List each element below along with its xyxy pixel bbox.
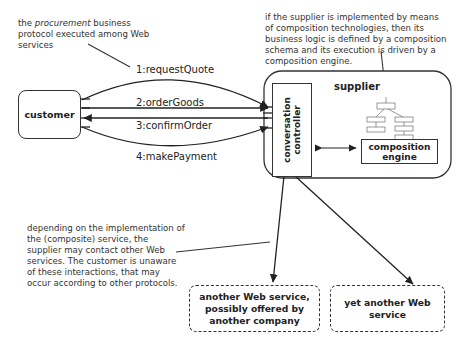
composition-note: if the supplier is implemented by means … — [265, 12, 446, 67]
composition-engine-node: composition engine — [361, 139, 438, 164]
conversation-controller-node: conversation controller — [272, 83, 312, 177]
message-label-request-quote: 1:requestQuote — [136, 64, 214, 75]
other-services-note: depending on the implementation of the (… — [27, 223, 185, 289]
message-label-confirm-order: 3:confirmOrder — [136, 120, 212, 131]
another-web-service-node: another Web service, possibly offered by… — [189, 285, 320, 332]
yet-another-web-service-node: yet another Web service — [330, 285, 445, 332]
procurement-emphasis: procurement — [35, 18, 91, 28]
supplier-label: supplier — [334, 81, 380, 92]
customer-node: customer — [18, 90, 81, 139]
message-label-order-goods: 2:orderGoods — [136, 97, 204, 108]
procurement-note: the procurement business protocol execut… — [18, 18, 149, 51]
message-label-make-payment: 4:makePayment — [136, 151, 217, 162]
